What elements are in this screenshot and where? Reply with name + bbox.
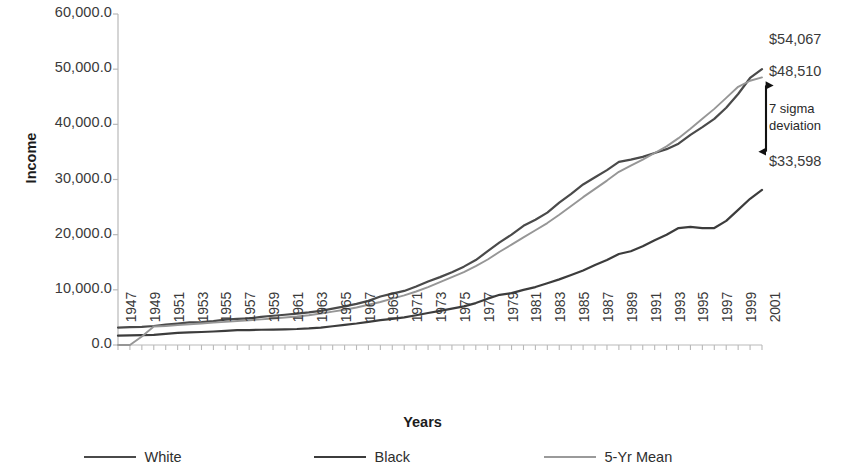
x-axis-tick-label: 1969: [385, 292, 401, 352]
legend-line-swatch: [314, 456, 366, 458]
y-axis-title: Income: [23, 98, 39, 218]
y-axis-tick-labels: 0.010,000.020,000.030,000.040,000.050,00…: [0, 0, 112, 472]
chart-plot-area: [0, 0, 857, 472]
annotation-black-end-value: $33,598: [769, 153, 821, 169]
legend-label: Black: [375, 449, 410, 465]
x-axis-tick-label: 1947: [123, 292, 139, 352]
x-axis-tick-label: 1985: [576, 292, 592, 352]
y-axis-ticks: [113, 14, 118, 345]
x-axis-tick-label: 1967: [362, 292, 378, 352]
x-axis-tick-label: 1951: [171, 292, 187, 352]
x-axis-tick-label: 1965: [338, 292, 354, 352]
legend-label: 5-Yr Mean: [605, 449, 673, 465]
x-axis-tick-label: 1981: [528, 292, 544, 352]
x-axis-tick-label: 1979: [505, 292, 521, 352]
chart-legend: WhiteBlack5-Yr Mean: [0, 443, 857, 471]
x-axis-tick-label: 1953: [195, 292, 211, 352]
legend-item-black[interactable]: Black: [314, 449, 544, 465]
legend-item-white[interactable]: White: [84, 449, 314, 465]
x-axis-tick-label: 1975: [457, 292, 473, 352]
x-axis-title: Years: [0, 414, 857, 430]
y-axis-tick-label: 60,000.0: [8, 4, 112, 20]
x-axis-tick-label: 1993: [672, 292, 688, 352]
x-axis-tick-label: 2001: [767, 292, 783, 352]
legend-line-swatch: [84, 456, 136, 458]
annotation-mean-end-value: $48,510: [769, 63, 821, 79]
x-axis-tick-label: 1991: [648, 292, 664, 352]
income-line-chart: 0.010,000.020,000.030,000.040,000.050,00…: [0, 0, 857, 472]
x-axis-tick-label: 1957: [242, 292, 258, 352]
x-axis-tick-label: 1955: [218, 292, 234, 352]
annotation-white-end-value: $54,067: [769, 31, 821, 47]
x-axis-tick-label: 1989: [624, 292, 640, 352]
x-axis-tick-label: 1999: [743, 292, 759, 352]
y-axis-tick-label: 10,000.0: [8, 280, 112, 296]
x-axis-tick-label: 1977: [481, 292, 497, 352]
series-line-white: [118, 69, 762, 327]
y-axis-tick-label: 0.0: [8, 335, 112, 351]
x-axis-tick-label: 1973: [433, 292, 449, 352]
x-axis-tick-label: 1983: [552, 292, 568, 352]
y-axis-tick-label: 20,000.0: [8, 225, 112, 241]
x-axis-tick-label: 1987: [600, 292, 616, 352]
x-axis-tick-label: 1963: [314, 292, 330, 352]
legend-label: White: [145, 449, 182, 465]
x-axis-tick-label: 1959: [266, 292, 282, 352]
x-axis-tick-label: 1949: [147, 292, 163, 352]
x-axis-tick-label: 1995: [695, 292, 711, 352]
x-axis-tick-label: 1997: [719, 292, 735, 352]
x-axis-tick-label: 1961: [290, 292, 306, 352]
y-axis-tick-label: 50,000.0: [8, 59, 112, 75]
annotation-sigma-deviation-label: 7 sigma deviation: [769, 100, 851, 134]
legend-line-swatch: [544, 456, 596, 458]
x-axis-title-text: Years: [403, 414, 442, 430]
x-axis-tick-label: 1971: [409, 292, 425, 352]
legend-item-5-yr-mean[interactable]: 5-Yr Mean: [544, 449, 774, 465]
